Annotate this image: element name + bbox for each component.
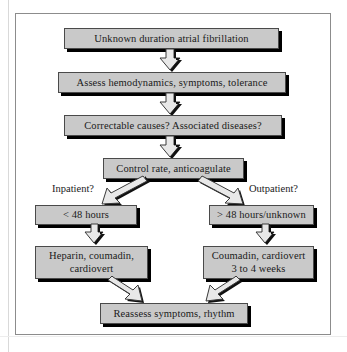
node-correctable-causes: Correctable causes? Associated diseases? xyxy=(64,115,282,136)
arrow-start-to-assess xyxy=(158,49,184,73)
arrow-control-to-lt48 xyxy=(95,176,151,208)
arrow-control-to-gt48 xyxy=(196,176,252,208)
node-coumadin-cardiovert: Coumadin, cardiovert 3 to 4 weeks xyxy=(203,246,314,279)
node-assess-label: Assess hemodynamics, symptoms, tolerance xyxy=(63,77,281,89)
node-control-rate-label: Control rate, anticoagulate xyxy=(108,163,239,175)
arrow-heparin-to-reassess xyxy=(108,276,150,304)
node-heparin-coumadin-cardiovert: Heparin, coumadin, cardiovert xyxy=(35,246,148,279)
arrow-lt48-to-heparin xyxy=(84,224,108,246)
node-coumadin-line-2: 3 to 4 weeks xyxy=(208,263,309,276)
node-gt-48-hours: > 48 hours/unknown xyxy=(209,205,314,225)
node-correctable-causes-label: Correctable causes? Associated diseases? xyxy=(69,120,277,132)
branch-label-inpatient: Inpatient? xyxy=(52,183,94,195)
arrow-gt48-to-coumadin xyxy=(255,224,279,246)
node-gt-48-hours-label: > 48 hours/unknown xyxy=(214,209,309,221)
branch-label-outpatient: Outpatient? xyxy=(249,183,298,195)
node-start-label: Unknown duration atrial fibrillation xyxy=(69,33,274,45)
node-assess: Assess hemodynamics, symptoms, tolerance xyxy=(58,72,286,93)
arrow-assess-to-correctable xyxy=(158,93,184,117)
node-start: Unknown duration atrial fibrillation xyxy=(64,28,279,49)
arrow-coumadin-to-reassess xyxy=(198,276,240,304)
node-reassess: Reassess symptoms, rhythm xyxy=(100,303,248,324)
node-lt-48-hours: < 48 hours xyxy=(35,205,137,225)
node-coumadin-line-1: Coumadin, cardiovert xyxy=(208,250,309,263)
node-heparin-line-1: Heparin, coumadin, xyxy=(40,250,143,263)
page-bottom-artifact xyxy=(0,336,347,337)
flowchart-page: Unknown duration atrial fibrillation Ass… xyxy=(0,0,347,352)
node-heparin-line-2: cardiovert xyxy=(40,263,143,276)
node-reassess-label: Reassess symptoms, rhythm xyxy=(105,308,243,320)
arrow-correctable-to-control xyxy=(158,136,184,160)
page-edge-artifact xyxy=(8,0,9,352)
node-lt-48-hours-label: < 48 hours xyxy=(40,209,132,221)
